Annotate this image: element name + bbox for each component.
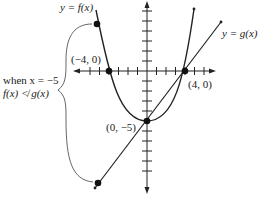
line-g xyxy=(95,22,221,188)
y-axis-down-arrow xyxy=(145,187,150,194)
line-g-endpoint-top xyxy=(220,21,223,24)
annotation-when: when x = −5 xyxy=(3,74,59,86)
point-neg4-0 xyxy=(106,68,113,75)
curve-f xyxy=(96,9,194,121)
point-4-0 xyxy=(182,68,189,75)
annotation-inequality: f(x) ≮ g(x) xyxy=(3,87,49,100)
label-point-4-0: (4, 0) xyxy=(188,78,212,91)
label-point-0-neg5: (0, −5) xyxy=(106,121,136,134)
point-f-at-neg5 xyxy=(94,21,101,28)
point-g-at-neg5 xyxy=(95,180,102,187)
label-f: y = f(x) xyxy=(59,1,93,14)
x-axis xyxy=(73,67,216,75)
y-axis xyxy=(142,1,152,194)
x-axis-left-arrow xyxy=(73,69,80,74)
function-graph: y = f(x) y = g(x) (−4, 0) (4, 0) (0, −5)… xyxy=(0,0,263,198)
line-g-endpoint-bottom xyxy=(94,187,97,190)
label-point-neg4-0: (−4, 0) xyxy=(71,53,101,66)
annotation-brace xyxy=(58,24,93,182)
label-g: y = g(x) xyxy=(221,27,258,40)
y-axis-up-arrow xyxy=(145,1,150,8)
curve-f-endpoint xyxy=(193,8,196,11)
x-axis-right-arrow xyxy=(209,69,216,74)
point-0-neg5 xyxy=(144,118,151,125)
